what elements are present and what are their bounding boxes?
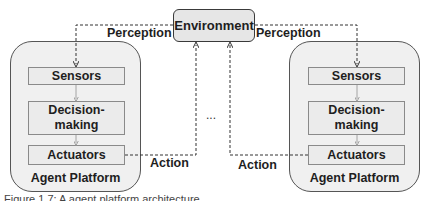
decision-making-label: Decision- making xyxy=(48,103,104,133)
environment-label: Environment xyxy=(174,18,253,33)
more-agents-ellipsis: ... xyxy=(206,108,216,122)
action-label-right: Action xyxy=(238,158,277,172)
sensors-box-right: Sensors xyxy=(308,67,405,85)
sensors-label: Sensors xyxy=(52,69,101,84)
actuators-box-left: Actuators xyxy=(28,145,125,165)
actuators-label: Actuators xyxy=(47,148,105,163)
action-label-left: Action xyxy=(150,156,189,170)
agent-platform-label: Agent Platform xyxy=(290,171,419,185)
sensors-label: Sensors xyxy=(332,69,381,84)
actuators-label: Actuators xyxy=(327,148,385,163)
agent-architecture-diagram: Agent Platform Sensors Decision- making … xyxy=(0,0,428,201)
sensors-box-left: Sensors xyxy=(28,67,125,85)
perception-label-left: Perception xyxy=(107,26,172,40)
decision-making-label: Decision- making xyxy=(328,103,384,133)
perception-label-right: Perception xyxy=(256,26,321,40)
figure-caption: Figure 1.7: A agent platform architectur… xyxy=(4,193,200,201)
actuators-box-right: Actuators xyxy=(308,145,405,165)
decision-making-box-right: Decision- making xyxy=(308,101,405,135)
environment-box: Environment xyxy=(173,9,255,42)
agent-platform-label: Agent Platform xyxy=(11,171,140,185)
decision-making-box-left: Decision- making xyxy=(28,101,125,135)
